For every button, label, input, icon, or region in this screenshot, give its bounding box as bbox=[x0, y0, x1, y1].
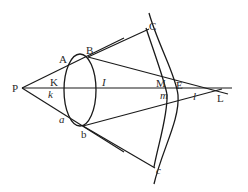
label-k: k bbox=[48, 88, 54, 100]
label-a: a bbox=[59, 113, 65, 125]
label-L: L bbox=[217, 92, 224, 104]
segment-b-c bbox=[83, 126, 155, 168]
label-m: m bbox=[160, 89, 168, 101]
label-M: M bbox=[156, 77, 166, 89]
geometry-diagram: P A B K k a b I C c M E m l L bbox=[0, 0, 248, 192]
label-A: A bbox=[59, 53, 67, 65]
label-B: B bbox=[86, 44, 93, 56]
label-P: P bbox=[12, 82, 18, 94]
label-c: c bbox=[156, 164, 161, 176]
label-E: E bbox=[176, 79, 183, 91]
ray-b-L bbox=[83, 89, 222, 126]
label-b: b bbox=[81, 128, 87, 140]
label-I: I bbox=[101, 76, 107, 88]
label-l: l bbox=[193, 90, 196, 102]
ray-P-b bbox=[22, 88, 124, 152]
diagram-canvas: P A B K k a b I C c M E m l L bbox=[0, 0, 248, 192]
label-K: K bbox=[50, 76, 58, 88]
label-C: C bbox=[149, 20, 156, 32]
segment-B-C bbox=[88, 29, 149, 57]
